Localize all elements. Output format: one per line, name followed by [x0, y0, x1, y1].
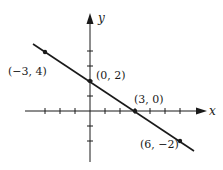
y-axis-arrow-icon — [87, 13, 94, 24]
x-axis-label: x — [209, 104, 216, 118]
x-axis-arrow-icon — [196, 108, 207, 115]
point-neg3-4 — [43, 50, 47, 54]
point-3-0 — [133, 109, 137, 113]
label-point-0-2: (0, 2) — [96, 69, 126, 82]
graph-line — [33, 44, 194, 151]
y-axis-label: y — [97, 11, 105, 25]
coordinate-plane: (−3, 4) (0, 2) (3, 0) (6, −2) x y — [0, 0, 223, 170]
label-point-6-neg2: (6, −2) — [140, 138, 179, 151]
label-point-3-0: (3, 0) — [134, 93, 164, 106]
label-point-neg3-4: (−3, 4) — [8, 65, 47, 78]
point-0-2 — [88, 79, 92, 83]
